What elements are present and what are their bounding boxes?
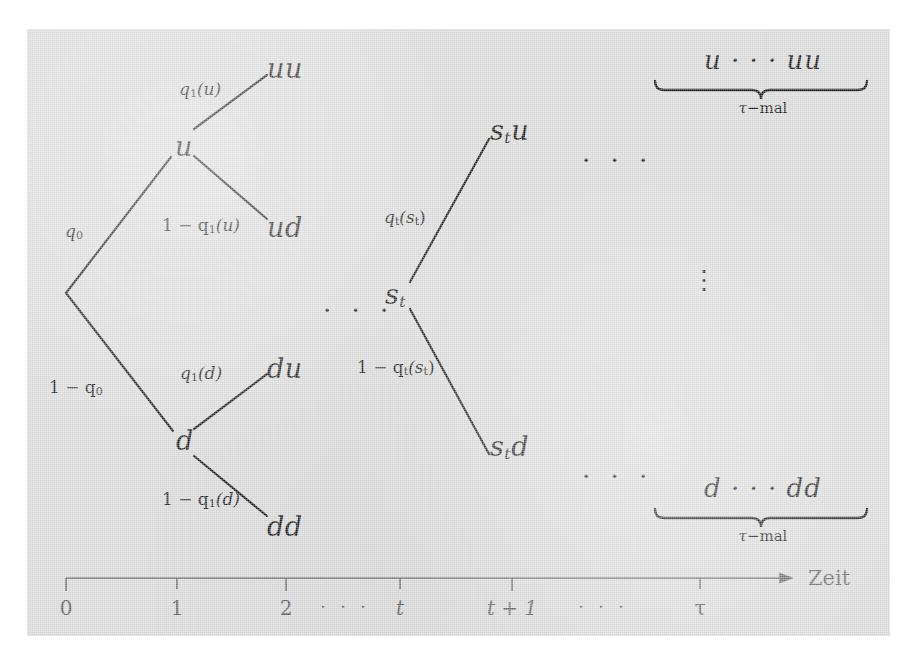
- prob-one-minus-q1-u-arg: (u): [216, 215, 240, 235]
- bottom-brace-group: d · · · dd: [645, 473, 881, 503]
- prob-one-minus-q0-sub: 0: [96, 385, 103, 398]
- leaf-dd: dd: [267, 513, 303, 540]
- prob-q1-u-sub: 1: [190, 87, 197, 100]
- ellipsis-mid-left: · · ·: [323, 297, 394, 323]
- bottom-brace-expression: d · · · dd: [645, 473, 881, 503]
- axis-name-label: Zeit: [808, 566, 850, 590]
- prob-q0-sub: 0: [76, 229, 83, 242]
- top-brace-group: u · · · uu: [645, 45, 881, 75]
- prob-q1-u-arg: (u): [197, 79, 221, 99]
- leaf-ud: ud: [267, 214, 303, 241]
- axis-label-0: 0: [60, 596, 73, 620]
- prob-one-minus-q1-d: 1 − q1(d): [162, 491, 240, 509]
- bottom-brace-caption-group: τ−mal: [645, 523, 881, 545]
- leaf-st-u-tail: u: [511, 115, 529, 146]
- prob-one-minus-qt-arg-open: (s: [408, 357, 423, 377]
- ellipsis-vertical: ⋮: [691, 272, 711, 288]
- ellipsis-top-right: · · ·: [582, 147, 653, 173]
- prob-qt-arg-open: (s: [399, 207, 414, 227]
- axis-label-tau: τ: [694, 596, 705, 620]
- prob-q1-d: q1(d): [180, 365, 222, 383]
- prob-qt-arg-close: ): [419, 207, 426, 227]
- bottom-brace-caption: τ−mal: [645, 527, 881, 545]
- prob-one-minus-qt-sym: 1 − q: [357, 357, 404, 377]
- leaf-du: du: [267, 355, 303, 382]
- leaf-uu: uu: [267, 55, 303, 82]
- prob-one-minus-q1-u: 1 − q1(u): [162, 217, 240, 235]
- prob-one-minus-q1-u-sub: 1: [209, 223, 216, 236]
- prob-one-minus-q0: 1 − q0: [49, 379, 103, 397]
- prob-one-minus-q0-sym: 1 − q: [49, 377, 96, 397]
- prob-one-minus-q1-u-sym: 1 − q: [162, 215, 209, 235]
- ellipsis-bottom-right: · · ·: [582, 463, 653, 489]
- top-brace-caption-group: τ−mal: [645, 95, 881, 117]
- node-st-sub: t: [399, 292, 406, 311]
- bottom-brace-tau: τ: [739, 527, 747, 545]
- axis-gap-dots-left: · · ·: [320, 595, 370, 617]
- prob-one-minus-qt-arg-close: ): [428, 357, 435, 377]
- prob-q1-d-sub: 1: [191, 371, 198, 384]
- figure-panel: u d st uu ud du dd stu std q0 1 − q0 q1(…: [27, 29, 890, 636]
- prob-qt-sym: q: [384, 207, 395, 227]
- prob-one-minus-q1-d-arg: (d): [216, 489, 240, 509]
- prob-one-minus-qt-st: 1 − qt(st): [357, 359, 435, 377]
- axis-label-t-plus-1: t + 1: [487, 596, 537, 620]
- axis-label-2: 2: [280, 596, 293, 620]
- prob-one-minus-q1-d-sub: 1: [209, 497, 216, 510]
- top-brace-tau: τ: [739, 99, 747, 117]
- leaf-st-d: std: [490, 433, 529, 462]
- axis-label-t-text: t: [396, 596, 404, 620]
- prob-q1-u-sym: q: [179, 79, 190, 99]
- axis-label-1: 1: [171, 596, 184, 620]
- top-brace-caption: τ−mal: [645, 99, 881, 117]
- axis-label-t: t: [396, 596, 404, 620]
- top-brace-expression: u · · · uu: [645, 45, 881, 75]
- leaf-st-d-base: s: [490, 431, 504, 462]
- axis-label-t-plus-1-text: t + 1: [487, 596, 537, 620]
- bottom-brace-mal: −mal: [747, 527, 788, 545]
- prob-q0: q0: [65, 223, 83, 241]
- top-brace-mal: −mal: [747, 99, 788, 117]
- leaf-st-d-tail: d: [511, 431, 529, 462]
- prob-qt-st: qt(st): [384, 209, 426, 227]
- prob-q1-d-sym: q: [180, 363, 191, 383]
- prob-one-minus-q1-d-sym: 1 − q: [162, 489, 209, 509]
- prob-q0-sym: q: [65, 221, 76, 241]
- axis-gap-dots-right: · · ·: [578, 595, 628, 617]
- node-d: d: [176, 427, 194, 454]
- prob-q1-u: q1(u): [179, 81, 221, 99]
- prob-q1-d-arg: (d): [198, 363, 222, 383]
- leaf-st-u-base: s: [490, 115, 504, 146]
- node-u: u: [175, 133, 193, 160]
- leaf-st-u: stu: [490, 117, 529, 146]
